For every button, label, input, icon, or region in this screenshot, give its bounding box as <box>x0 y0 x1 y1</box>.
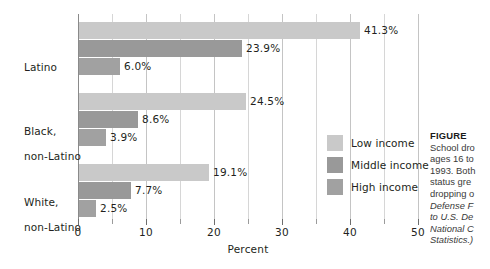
bar-latino-middle-income <box>79 40 242 57</box>
x-axis-title: Percent <box>228 243 269 255</box>
bar-value-latino-high-income: 6.0% <box>124 58 151 75</box>
xtick-0 <box>78 219 79 225</box>
bar-white-non-latino-middle-income <box>79 182 131 199</box>
figure-caption-line-4: status gre <box>430 176 490 188</box>
xtick-label-20: 20 <box>207 226 221 238</box>
bar-white-non-latino-low-income <box>79 164 209 181</box>
xtick-40 <box>350 219 351 225</box>
bar-value-white-non-latino-high-income-bar <box>79 200 96 217</box>
legend-swatch-high-income <box>327 179 343 195</box>
figure-container: 41.3% 23.9% 6.0% 24.5% 8.6% 3.9% 19.1% 7… <box>0 0 490 269</box>
bar-value-latino-middle-income: 23.9% <box>246 40 280 57</box>
xtick-35 <box>316 219 317 224</box>
category-label-latino-line1: Latino <box>24 61 57 74</box>
figure-caption-title: FIGURE <box>430 130 490 142</box>
bar-latino-high-income <box>79 58 120 75</box>
gridline-major-30 <box>282 14 283 219</box>
xtick-50 <box>418 219 419 225</box>
category-label-latino: Latino <box>24 48 57 86</box>
gridline-minor-35 <box>316 14 317 219</box>
xtick-label-10: 10 <box>139 226 153 238</box>
bar-value-black-non-latino-high-income: 3.9% <box>110 129 137 146</box>
figure-caption: FIGURE School dro ages 16 to 1993. Both … <box>430 130 490 246</box>
bar-value-white-non-latino-middle-income: 7.7% <box>135 182 162 199</box>
xtick-10 <box>146 219 147 225</box>
bar-black-non-latino-middle-income <box>79 111 138 128</box>
bar-value-black-non-latino-low-income: 24.5% <box>250 93 284 110</box>
xtick-label-50: 50 <box>411 226 425 238</box>
figure-caption-line-7: to U.S. De <box>430 211 490 223</box>
category-label-black-non-latino: Black, non-Latino <box>24 112 81 175</box>
bar-value-white-non-latino-low-income: 19.1% <box>213 164 247 181</box>
figure-caption-line-2: ages 16 to <box>430 153 490 165</box>
xtick-label-30: 30 <box>275 226 289 238</box>
bar-black-non-latino-low-income <box>79 93 246 110</box>
legend-item-middle-income: Middle income <box>327 154 429 176</box>
legend-swatch-middle-income <box>327 157 343 173</box>
xtick-15 <box>180 219 181 224</box>
legend-label-middle-income: Middle income <box>351 159 429 171</box>
category-label-black-non-latino-line2: non-Latino <box>24 150 81 163</box>
xtick-label-0: 0 <box>75 226 82 238</box>
xtick-20 <box>214 219 215 225</box>
legend-swatch-low-income <box>327 135 343 151</box>
xtick-25 <box>248 219 249 224</box>
legend: Low income Middle income High income <box>327 132 429 198</box>
legend-label-high-income: High income <box>351 181 418 193</box>
xtick-30 <box>282 219 283 225</box>
xtick-45 <box>384 219 385 224</box>
category-label-white-non-latino: White, non-Latino <box>24 183 81 246</box>
figure-caption-line-9: Statistics.) <box>430 234 490 246</box>
bar-value-black-non-latino-middle-income: 8.6% <box>142 111 169 128</box>
xtick-label-40: 40 <box>343 226 357 238</box>
bar-value-white-non-latino-high-income: 2.5% <box>100 200 127 217</box>
category-label-white-non-latino-line2: non-Latino <box>24 221 81 234</box>
legend-item-low-income: Low income <box>327 132 429 154</box>
xtick-5 <box>112 219 113 224</box>
figure-caption-line-1: School dro <box>430 142 490 154</box>
legend-item-high-income: High income <box>327 176 429 198</box>
bar-latino-low-income <box>79 22 360 39</box>
figure-caption-line-8: National C <box>430 223 490 235</box>
figure-caption-line-3: 1993. Both <box>430 165 490 177</box>
bar-black-non-latino-high-income <box>79 129 106 146</box>
bar-value-latino-low-income: 41.3% <box>364 22 398 39</box>
category-label-black-non-latino-line1: Black, <box>24 125 81 138</box>
figure-caption-line-5: dropping o <box>430 188 490 200</box>
category-label-white-non-latino-line1: White, <box>24 196 81 209</box>
figure-caption-line-6: Defense F <box>430 200 490 212</box>
legend-label-low-income: Low income <box>351 137 414 149</box>
